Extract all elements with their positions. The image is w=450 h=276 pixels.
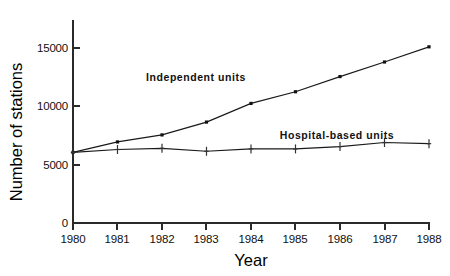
x-tick-label-1985: 1985	[283, 233, 308, 245]
x-tick-label-1982: 1982	[150, 233, 175, 245]
x-tick-marks	[73, 223, 429, 230]
data-point-marker	[249, 102, 252, 105]
y-tick-label-15000: 15000	[37, 42, 68, 54]
x-tick-label-1983: 1983	[194, 233, 219, 245]
x-tick-label-1988: 1988	[417, 233, 442, 245]
data-point-marker	[294, 90, 297, 93]
y-axis-title: Number of stations	[7, 63, 25, 201]
x-tick-label-1987: 1987	[373, 233, 398, 245]
x-tick-label-1980: 1980	[61, 233, 86, 245]
series-annotation-independent-units: Independent units	[146, 71, 246, 83]
data-point-marker	[383, 60, 386, 63]
y-tick-label-0: 0	[62, 217, 68, 229]
data-point-marker	[427, 139, 431, 148]
data-point-marker	[71, 148, 75, 157]
data-point-marker	[204, 147, 208, 156]
data-point-marker	[249, 144, 253, 153]
data-point-marker	[427, 45, 430, 48]
data-point-marker	[338, 142, 342, 151]
data-point-marker	[293, 144, 297, 153]
chart-figure: Number of stations 15000 10000 5000 0	[0, 0, 450, 276]
data-point-marker	[115, 145, 119, 154]
x-axis-title: Year	[234, 251, 268, 269]
line-chart-plot: Number of stations 15000 10000 5000 0	[0, 0, 450, 276]
y-tick-label-10000: 10000	[37, 100, 68, 112]
data-point-marker	[160, 144, 164, 153]
data-point-marker	[338, 75, 341, 78]
y-tick-marks	[73, 48, 80, 223]
data-point-marker	[205, 120, 208, 123]
y-tick-label-5000: 5000	[43, 159, 68, 171]
x-tick-label-1986: 1986	[328, 233, 353, 245]
x-tick-label-1984: 1984	[239, 233, 265, 245]
x-tick-label-1981: 1981	[105, 233, 130, 245]
data-point-marker	[160, 133, 163, 136]
data-point-marker	[116, 140, 119, 143]
series-annotation-hospital-based-units: Hospital-based units	[280, 129, 394, 141]
